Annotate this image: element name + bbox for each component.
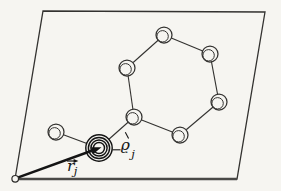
figure-canvas: r j ϱ j bbox=[0, 0, 281, 191]
origin-circle bbox=[12, 176, 19, 183]
r-vector-label: r j bbox=[67, 157, 78, 178]
position-vector-shaft bbox=[16, 149, 96, 178]
unit-cell-outline bbox=[15, 11, 265, 179]
bonds-layer bbox=[56, 35, 219, 148]
rho-symbol-text: ϱ bbox=[121, 136, 130, 154]
rho-label: ϱ j bbox=[121, 136, 136, 161]
unit-cell-layer bbox=[15, 11, 265, 179]
unit-cell-diagram: r j ϱ j bbox=[0, 0, 281, 191]
atoms-layer bbox=[48, 27, 227, 143]
origin-layer bbox=[12, 176, 19, 183]
position-vector-layer bbox=[16, 147, 102, 178]
